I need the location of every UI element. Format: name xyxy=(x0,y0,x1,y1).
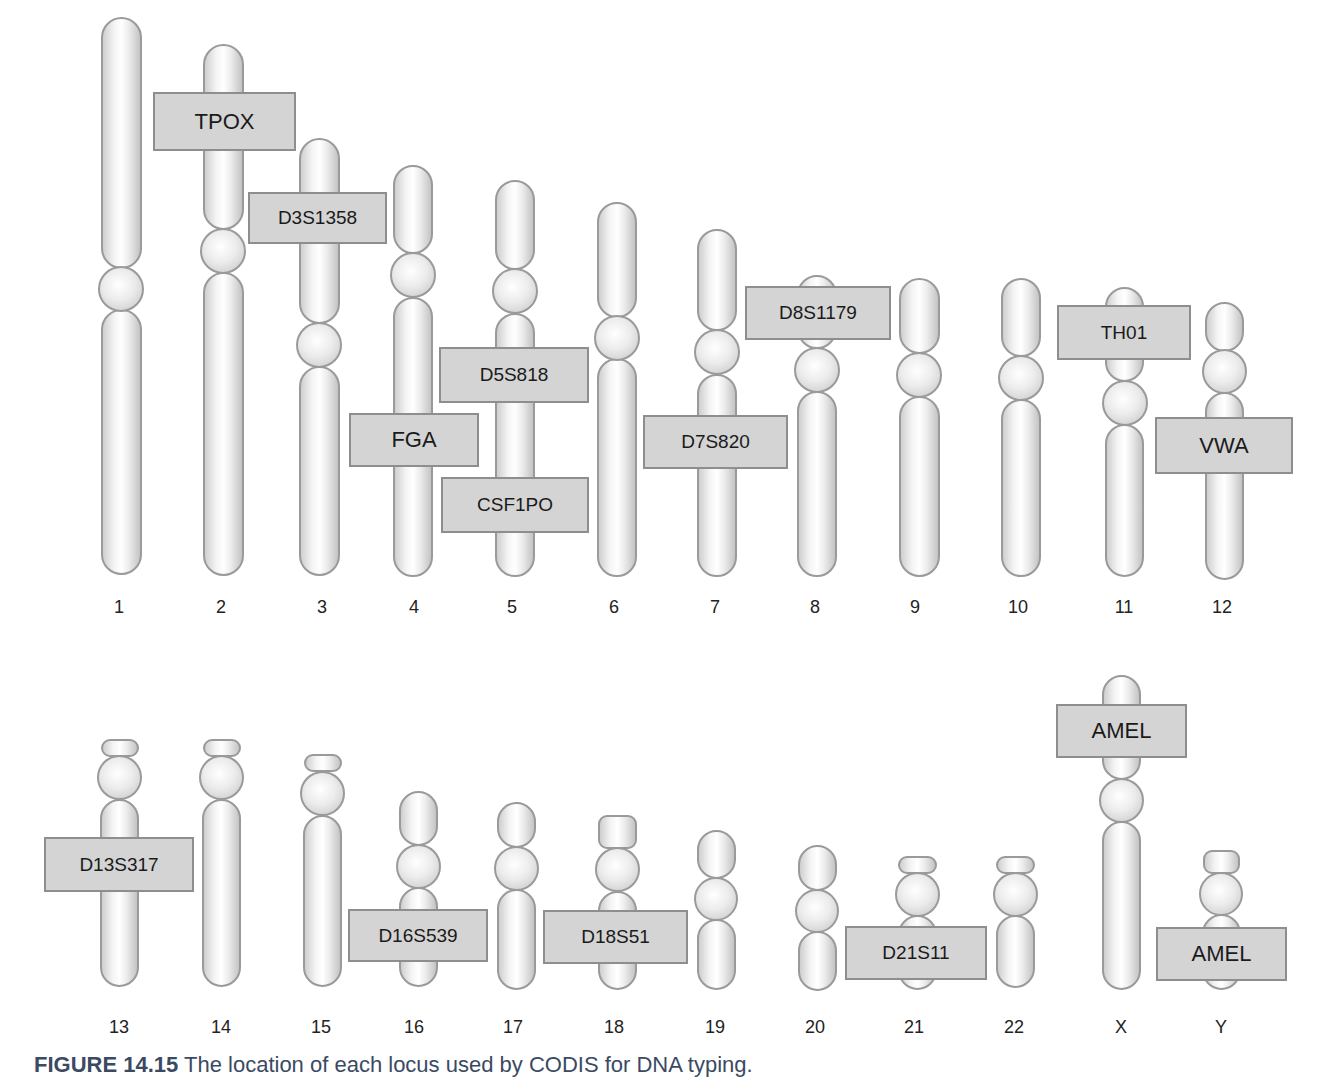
locus-box-d13s317-chr13: D13S317 xyxy=(44,837,194,892)
centromere-segment xyxy=(595,847,640,892)
centromere-segment xyxy=(98,266,144,312)
chromosome-arm xyxy=(697,374,737,577)
centromere-segment xyxy=(895,872,940,917)
chromosome-arm xyxy=(597,358,637,577)
chromosome-arm xyxy=(101,17,142,269)
centromere-segment xyxy=(492,268,538,314)
satellite-cap xyxy=(598,815,637,849)
chromosome-arm xyxy=(495,180,535,270)
chromosome-arm xyxy=(1105,424,1144,577)
chromosome-number-label: 15 xyxy=(301,1017,341,1038)
locus-box-amel-chry: AMEL xyxy=(1156,927,1287,981)
chromosome-arm xyxy=(798,845,837,891)
chromosome-number-label: 5 xyxy=(492,597,532,618)
centromere-segment xyxy=(396,844,441,889)
locus-box-d21s11-chr21: D21S11 xyxy=(845,926,987,980)
satellite-cap xyxy=(304,754,342,772)
centromere-segment xyxy=(794,347,840,393)
chromosome-number-label: Y xyxy=(1201,1017,1241,1038)
chromosome-arm xyxy=(202,799,241,987)
figure-caption-label: FIGURE 14.15 xyxy=(34,1052,178,1077)
chromosome-arm xyxy=(101,309,142,575)
locus-box-d7s820-chr7: D7S820 xyxy=(643,415,788,469)
chromosome-number-label: 22 xyxy=(994,1017,1034,1038)
chromosome-number-label: 9 xyxy=(895,597,935,618)
satellite-cap xyxy=(1203,850,1240,874)
centromere-segment xyxy=(199,755,244,800)
centromere-segment xyxy=(594,315,640,361)
locus-box-vwa-chr12: VWA xyxy=(1155,417,1293,474)
chromosome-arm xyxy=(1001,399,1041,577)
centromere-segment xyxy=(896,352,942,398)
locus-box-d3s1358-chr3: D3S1358 xyxy=(248,192,387,244)
chromosome-number-label: 4 xyxy=(394,597,434,618)
centromere-segment xyxy=(795,889,839,933)
chromosome-arm xyxy=(996,915,1035,988)
centromere-segment xyxy=(494,846,539,891)
chromosome-number-label: 2 xyxy=(201,597,241,618)
chromosome-arm xyxy=(203,272,244,576)
chromosome-arm xyxy=(303,815,342,987)
chromosome-arm xyxy=(1001,278,1041,357)
chromosome-arm xyxy=(899,396,940,577)
centromere-segment xyxy=(200,228,246,274)
centromere-segment xyxy=(390,252,436,298)
centromere-segment xyxy=(300,771,345,816)
centromere-segment xyxy=(1102,380,1148,426)
locus-box-amel-chrx: AMEL xyxy=(1056,704,1187,758)
chromosome-arm xyxy=(1102,821,1141,990)
centromere-segment xyxy=(694,877,738,921)
chromosome-arm xyxy=(697,229,737,331)
chromosome-arm xyxy=(899,278,940,354)
chromosome-number-label: 18 xyxy=(594,1017,634,1038)
locus-box-d18s51-chr18: D18S51 xyxy=(543,910,688,964)
centromere-segment xyxy=(1202,349,1247,394)
chromosome-arm xyxy=(100,799,139,987)
centromere-segment xyxy=(97,755,142,800)
chromosome-arm xyxy=(497,802,536,848)
chromosome-arm xyxy=(597,202,637,318)
chromosome-arm xyxy=(697,830,736,879)
chromosome-number-label: 16 xyxy=(394,1017,434,1038)
centromere-segment xyxy=(993,872,1038,917)
chromosome-number-label: 10 xyxy=(998,597,1038,618)
chromosome-arm xyxy=(1205,302,1244,352)
chromosome-number-label: 20 xyxy=(795,1017,835,1038)
chromosome-arm xyxy=(797,391,837,577)
chromosome-number-label: 1 xyxy=(99,597,139,618)
chromosome-arm xyxy=(399,791,438,846)
centromere-segment xyxy=(296,322,342,368)
chromosome-number-label: 3 xyxy=(302,597,342,618)
chromosome-number-label: 17 xyxy=(493,1017,533,1038)
locus-box-csf1po-chr5: CSF1PO xyxy=(441,477,589,533)
locus-box-tpox-chr2: TPOX xyxy=(153,92,296,151)
chromosome-number-label: 19 xyxy=(695,1017,735,1038)
chromosome-number-label: 13 xyxy=(99,1017,139,1038)
chromosome-number-label: 21 xyxy=(894,1017,934,1038)
centromere-segment xyxy=(694,329,740,375)
centromere-segment xyxy=(1199,872,1243,916)
chromosome-number-label: 6 xyxy=(594,597,634,618)
centromere-segment xyxy=(1099,778,1144,823)
centromere-segment xyxy=(998,355,1044,401)
chromosome-arm xyxy=(697,919,736,990)
chromosome-arm xyxy=(299,366,340,576)
chromosome-number-label: 8 xyxy=(795,597,835,618)
figure-caption-text: The location of each locus used by CODIS… xyxy=(184,1052,753,1077)
chromosome-number-label: 12 xyxy=(1202,597,1242,618)
locus-box-fga-chr4: FGA xyxy=(349,413,479,467)
chromosome-arm xyxy=(393,165,433,254)
chromosome-number-label: X xyxy=(1101,1017,1141,1038)
chromosome-number-label: 7 xyxy=(695,597,735,618)
chromosome-arm xyxy=(798,931,837,991)
locus-box-th01-chr11: TH01 xyxy=(1057,305,1191,360)
chromosome-arm xyxy=(497,889,536,990)
locus-box-d8s1179-chr8: D8S1179 xyxy=(745,286,891,340)
chromosome-number-label: 14 xyxy=(201,1017,241,1038)
locus-box-d16s539-chr16: D16S539 xyxy=(348,909,488,962)
locus-box-d5s818-chr5: D5S818 xyxy=(439,347,589,403)
chromosome-number-label: 11 xyxy=(1104,597,1144,618)
figure-caption: FIGURE 14.15 The location of each locus … xyxy=(34,1052,753,1078)
